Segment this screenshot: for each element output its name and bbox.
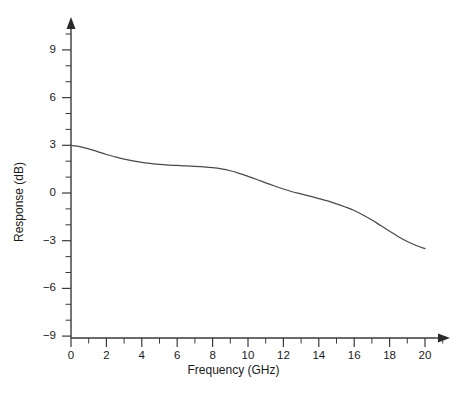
x-tick-label: 20 [419, 350, 432, 362]
x-tick-label: 4 [139, 350, 145, 362]
x-tick-label: 10 [242, 350, 255, 362]
x-axis-title: Frequency (GHz) [0, 363, 467, 377]
x-axis-ticks [71, 338, 443, 347]
y-axis-ticks [62, 34, 71, 336]
y-tick-label: 3 [26, 140, 56, 152]
chart-figure: −9−6−30369 02468101214161820 Frequency (… [0, 0, 467, 399]
y-axis-title: Response (dB) [12, 147, 26, 257]
x-tick-label: 2 [103, 350, 109, 362]
x-tick-label: 14 [312, 350, 325, 362]
response-curve [71, 145, 425, 248]
x-tick-label: 8 [209, 350, 215, 362]
x-tick-label: 6 [174, 350, 180, 362]
y-tick-label: −3 [26, 235, 56, 247]
y-tick-label: 9 [26, 44, 56, 56]
x-tick-label: 12 [277, 350, 290, 362]
y-tick-label: 6 [26, 92, 56, 104]
x-tick-label: 16 [348, 350, 361, 362]
y-tick-label: −6 [26, 283, 56, 295]
x-axis-arrow-icon [438, 334, 450, 343]
x-tick-label: 0 [68, 350, 74, 362]
y-axis-arrow-icon [67, 17, 76, 29]
x-tick-label: 18 [383, 350, 396, 362]
plot-area [0, 0, 467, 399]
y-tick-label: 0 [26, 187, 56, 199]
y-tick-label: −9 [26, 330, 56, 342]
